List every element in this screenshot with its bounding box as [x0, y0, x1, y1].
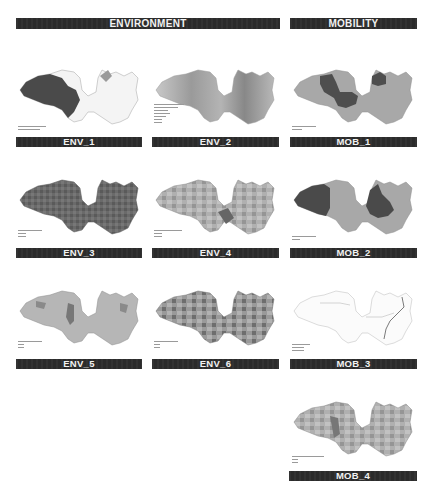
legend-mob2: [292, 236, 322, 242]
panel-label-env4: ENV_4: [152, 248, 279, 258]
section-header-environment: ENVIRONMENT: [16, 18, 280, 29]
legend-mob4: [292, 456, 326, 465]
legend-env3: [18, 230, 48, 239]
map-mob3: [290, 283, 416, 351]
panel-label-mob1: MOB_1: [290, 137, 417, 147]
panel-label-mob3: MOB_3: [290, 359, 417, 369]
panel-label-env1: ENV_1: [16, 137, 142, 147]
map-env1: [16, 62, 142, 130]
panel-label-mob2: MOB_2: [290, 248, 417, 258]
legend-env6: [154, 341, 184, 350]
legend-mob3: [292, 344, 322, 353]
map-mob1: [290, 62, 416, 130]
legend-mob1: [292, 126, 322, 132]
legend-env1: [18, 126, 48, 132]
panel-label-env2: ENV_2: [152, 137, 279, 147]
panel-label-mob4: MOB_4: [289, 471, 417, 481]
legend-env4: [154, 230, 184, 239]
section-header-mobility: MOBILITY: [290, 18, 417, 29]
panel-label-env5: ENV_5: [16, 359, 142, 369]
panel-label-env6: ENV_6: [152, 359, 279, 369]
panel-label-env3: ENV_3: [16, 248, 142, 258]
map-mob4: [290, 394, 416, 462]
legend-env5: [18, 341, 48, 350]
legend-env2: [154, 104, 184, 125]
map-mob2: [290, 172, 416, 240]
